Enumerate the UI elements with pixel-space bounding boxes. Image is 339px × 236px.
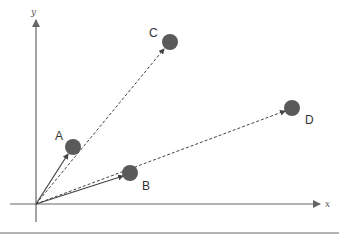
- point-b: [122, 165, 138, 181]
- point-a: [65, 139, 81, 155]
- vector-to-d: [36, 111, 285, 204]
- label-b: B: [142, 179, 150, 193]
- label-d: D: [305, 113, 314, 127]
- solid-vectors: [36, 154, 123, 204]
- point-d: [284, 100, 300, 116]
- point-c: [162, 34, 178, 50]
- label-a: A: [55, 129, 63, 143]
- dashed-vectors: [36, 49, 285, 204]
- vector-to-a: [36, 154, 68, 204]
- label-c: C: [149, 26, 158, 40]
- points: [65, 34, 300, 181]
- vector-to-b: [36, 176, 123, 204]
- y-axis-label: y: [30, 7, 37, 17]
- x-axis-label: x: [325, 199, 330, 209]
- point-labels: A B C D: [55, 26, 314, 193]
- vector-diagram: x y A B C D: [0, 0, 339, 236]
